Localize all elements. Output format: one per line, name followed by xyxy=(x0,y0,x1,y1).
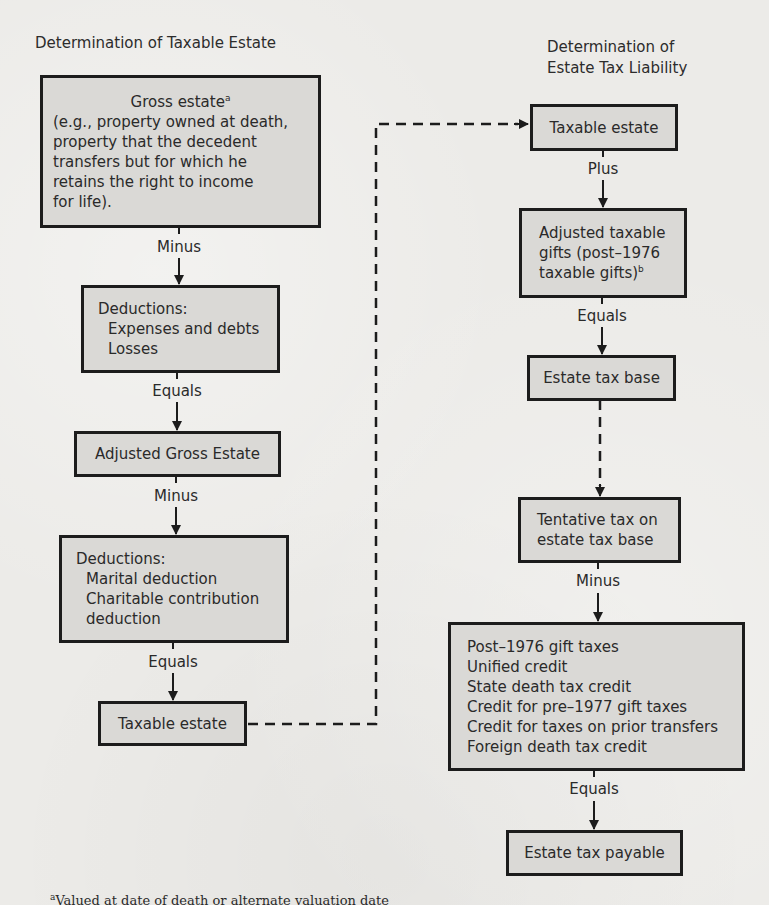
gross-estate-box: Gross estatea (e.g., property owned at d… xyxy=(40,75,321,228)
left-column-title: Determination of Taxable Estate xyxy=(35,33,276,54)
estate-tax-payable-box: Estate tax payable xyxy=(506,830,683,876)
deductions-expenses-box: Deductions: Expenses and debts Losses xyxy=(81,285,280,373)
operator-equals-3: Equals xyxy=(577,307,627,325)
adjusted-taxable-gifts-box: Adjusted taxable gifts (post–1976 taxabl… xyxy=(519,208,687,298)
operator-minus-1: Minus xyxy=(157,238,201,256)
operator-plus: Plus xyxy=(588,160,619,178)
right-column-title: Determination of Estate Tax Liability xyxy=(547,37,687,79)
operator-equals-1: Equals xyxy=(152,382,202,400)
operator-equals-4: Equals xyxy=(569,780,619,798)
tentative-tax-box: Tentative tax on estate tax base xyxy=(518,497,681,563)
operator-minus-3: Minus xyxy=(576,572,620,590)
operator-minus-2: Minus xyxy=(154,487,198,505)
operator-equals-2: Equals xyxy=(148,653,198,671)
footnote-marker-b: b xyxy=(638,264,644,274)
deductions-marital-box: Deductions: Marital deduction Charitable… xyxy=(59,535,289,643)
footnote: aValued at date of death or alternate va… xyxy=(50,893,389,905)
footnote-text: Valued at date of death or alternate val… xyxy=(55,893,389,905)
gross-estate-description: (e.g., property owned at death, property… xyxy=(51,112,288,212)
estate-tax-base-box: Estate tax base xyxy=(527,355,676,401)
taxable-estate-left-box: Taxable estate xyxy=(98,701,247,746)
footnote-marker-a: a xyxy=(225,93,231,103)
taxable-estate-right-box: Taxable estate xyxy=(530,104,678,151)
adjusted-gross-estate-box: Adjusted Gross Estate xyxy=(74,431,281,477)
gross-estate-heading: Gross estatea xyxy=(131,92,231,112)
credits-box: Post–1976 gift taxes Unified credit Stat… xyxy=(448,622,745,771)
